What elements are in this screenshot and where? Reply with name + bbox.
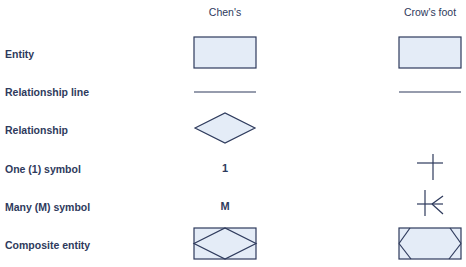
chen-composite-entity-icon [194,228,256,259]
crows-foot-one-symbol-icon [417,154,443,180]
notation-shapes [0,0,466,267]
crows-foot-entity-rectangle-icon [399,37,461,68]
chen-relationship-diamond-icon [195,113,255,143]
crows-foot-many-symbol-icon [417,190,443,216]
crows-foot-composite-entity-icon [399,228,461,259]
chen-entity-rectangle-icon [194,37,256,68]
